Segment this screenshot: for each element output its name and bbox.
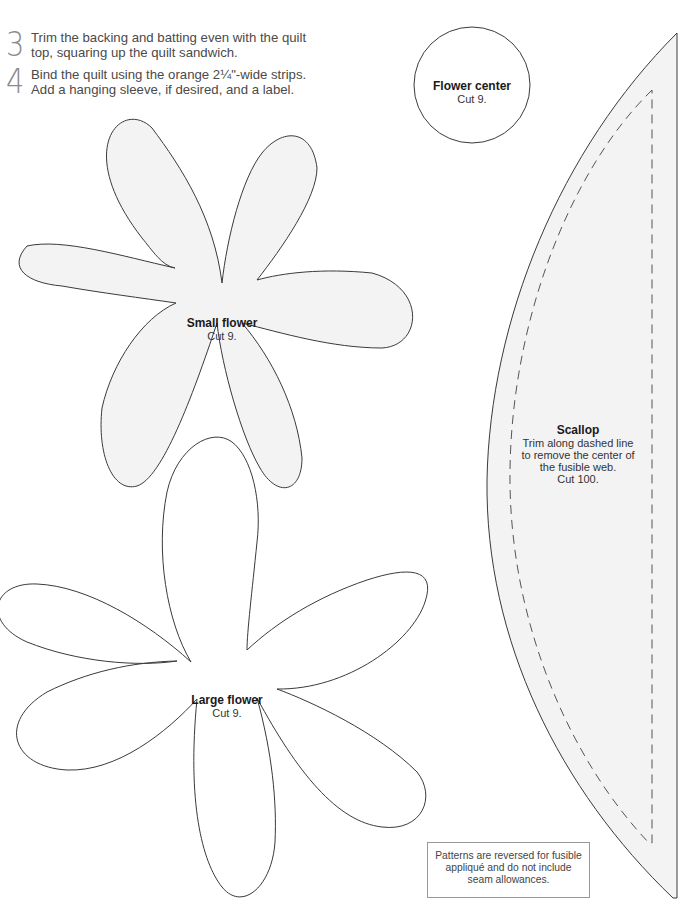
small-flower-label: Small flower Cut 9. xyxy=(162,316,282,342)
scallop-instruction-line: Trim along dashed line xyxy=(508,437,648,449)
scallop-instruction-line: the fusible web. xyxy=(508,461,648,473)
large-flower-shape xyxy=(0,437,428,897)
note-line: seam allowances. xyxy=(428,874,589,886)
small-flower-cut: Cut 9. xyxy=(162,330,282,342)
flower-center-label: Flower center Cut 9. xyxy=(412,79,532,105)
scallop-label: Scallop Trim along dashed line to remove… xyxy=(508,423,648,485)
note-line: Patterns are reversed for fusible xyxy=(428,850,589,862)
scallop-title: Scallop xyxy=(508,423,648,437)
small-flower-shape xyxy=(19,119,413,487)
scallop-instruction-line: to remove the center of xyxy=(508,449,648,461)
large-flower-label: Large flower Cut 9. xyxy=(167,693,287,719)
small-flower-title: Small flower xyxy=(162,316,282,330)
flower-center-cut: Cut 9. xyxy=(412,93,532,105)
pattern-note-box: Patterns are reversed for fusible appliq… xyxy=(427,842,590,898)
large-flower-cut: Cut 9. xyxy=(167,707,287,719)
flower-center-title: Flower center xyxy=(412,79,532,93)
scallop-cut: Cut 100. xyxy=(508,473,648,485)
note-line: appliqué and do not include xyxy=(428,862,589,874)
large-flower-title: Large flower xyxy=(167,693,287,707)
